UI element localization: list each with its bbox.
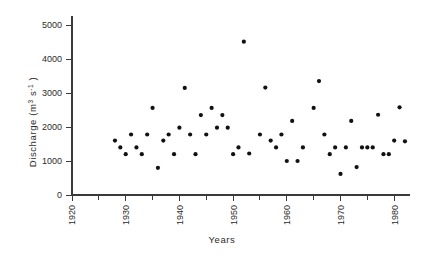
data-points-group — [113, 40, 407, 176]
data-point — [392, 139, 396, 143]
data-point — [140, 152, 144, 156]
data-point — [338, 172, 342, 176]
x-tick-label: 1950 — [229, 205, 239, 225]
data-point — [344, 145, 348, 149]
y-tick-label: 4000 — [42, 54, 62, 64]
data-point — [210, 106, 214, 110]
data-point — [371, 145, 375, 149]
chart-figure: 010002000300040005000 192019301940195019… — [0, 0, 433, 258]
data-point — [129, 132, 133, 136]
data-point — [301, 145, 305, 149]
data-point — [134, 145, 138, 149]
data-point — [236, 145, 240, 149]
data-point — [199, 113, 203, 117]
data-point — [113, 139, 117, 143]
data-point — [365, 145, 369, 149]
data-point — [156, 166, 160, 170]
data-point — [317, 79, 321, 83]
y-tick-label: 5000 — [42, 20, 62, 30]
data-point — [376, 113, 380, 117]
y-axis-ticks — [66, 25, 72, 195]
data-point — [397, 105, 401, 109]
x-tick-label: 1920 — [67, 205, 77, 225]
scatter-plot-svg: 010002000300040005000 192019301940195019… — [0, 0, 433, 258]
x-tick-label: 1960 — [282, 205, 292, 225]
x-tick-label: 1980 — [390, 205, 400, 225]
data-point — [258, 132, 262, 136]
data-point — [172, 152, 176, 156]
data-point — [355, 165, 359, 169]
data-point — [188, 132, 192, 136]
data-point — [247, 151, 251, 155]
data-point — [387, 152, 391, 156]
x-axis-ticks — [72, 195, 394, 201]
data-point — [145, 132, 149, 136]
data-point — [263, 85, 267, 89]
data-point — [242, 40, 246, 44]
x-tick-label: 1940 — [175, 205, 185, 225]
y-tick-label: 3000 — [42, 88, 62, 98]
data-point — [274, 145, 278, 149]
x-axis-title: Years — [209, 234, 236, 245]
data-point — [279, 132, 283, 136]
y-axis-tick-labels: 010002000300040005000 — [42, 20, 62, 200]
data-point — [333, 145, 337, 149]
data-point — [183, 86, 187, 90]
data-point — [161, 139, 165, 143]
y-tick-label: 0 — [57, 190, 62, 200]
data-point — [231, 152, 235, 156]
data-point — [381, 152, 385, 156]
data-point — [118, 145, 122, 149]
data-point — [290, 119, 294, 123]
data-point — [215, 126, 219, 130]
y-tick-label: 1000 — [42, 156, 62, 166]
x-axis-tick-labels: 1920193019401950196019701980 — [67, 205, 399, 225]
data-point — [193, 152, 197, 156]
data-point — [226, 126, 230, 130]
data-point — [204, 132, 208, 136]
data-point — [322, 132, 326, 136]
data-point — [220, 113, 224, 117]
y-axis-title: Discharge (m3 s-1 ) — [27, 77, 38, 168]
x-tick-label: 1930 — [121, 205, 131, 225]
data-point — [124, 152, 128, 156]
data-point — [295, 159, 299, 163]
data-point — [328, 152, 332, 156]
data-point — [285, 159, 289, 163]
y-tick-label: 2000 — [42, 122, 62, 132]
data-point — [349, 119, 353, 123]
data-point — [269, 139, 273, 143]
data-point — [167, 132, 171, 136]
data-point — [403, 139, 407, 143]
data-point — [150, 106, 154, 110]
x-tick-label: 1970 — [336, 205, 346, 225]
data-point — [177, 126, 181, 130]
data-point — [312, 106, 316, 110]
data-point — [360, 145, 364, 149]
